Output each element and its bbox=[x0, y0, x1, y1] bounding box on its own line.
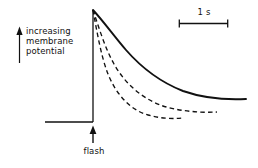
y-axis-caption-line-1: increasing bbox=[26, 26, 73, 36]
y-axis-caption: increasing membrane potential bbox=[26, 26, 73, 56]
flash-arrow-icon bbox=[90, 126, 97, 144]
membrane-potential-figure: increasing membrane potential flash 1 s bbox=[0, 0, 258, 168]
flash-label: flash bbox=[78, 146, 110, 156]
y-axis-caption-line-3: potential bbox=[26, 46, 73, 56]
y-axis-caption-line-2: membrane bbox=[26, 36, 73, 46]
scale-bar-label: 1 s bbox=[188, 7, 220, 17]
scale-bar bbox=[179, 20, 228, 28]
series-response-medium-dashed bbox=[93, 10, 217, 112]
y-axis-arrow-icon bbox=[16, 27, 22, 64]
